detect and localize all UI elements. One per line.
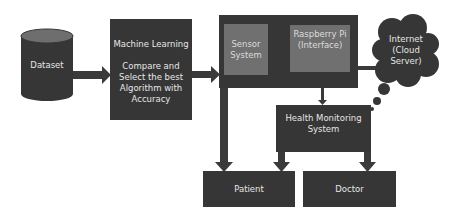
arrow-dataset-to-ml bbox=[73, 66, 111, 84]
internet-label: Internet (Cloud Server) bbox=[389, 34, 423, 67]
patient-label: Patient bbox=[234, 184, 264, 195]
machine-learning-node: Machine Learning Compare and Select the … bbox=[110, 19, 192, 120]
thought-bubbles bbox=[370, 83, 390, 111]
diagram-canvas: Dataset Machine Learning Compare and Sel… bbox=[0, 0, 458, 215]
arrow-iot-to-patient bbox=[215, 86, 233, 172]
internet-node: Internet (Cloud Server) bbox=[380, 30, 432, 70]
ml-title: Machine Learning bbox=[113, 39, 188, 50]
dataset-label: Dataset bbox=[30, 60, 63, 71]
arrow-health-to-doctor bbox=[359, 150, 376, 172]
arrow-health-to-patient bbox=[273, 150, 290, 172]
sensor-system-node: Sensor System bbox=[224, 24, 268, 75]
ml-body: Compare and Select the best Algorithm wi… bbox=[119, 61, 183, 105]
arrow-iot-to-health bbox=[318, 86, 327, 105]
doctor-node: Doctor bbox=[303, 171, 396, 207]
arrow-iot-to-internet bbox=[356, 66, 378, 70]
raspberry-label: Raspberry Pi (Interface) bbox=[293, 29, 346, 51]
health-monitoring-node: Health Monitoring System bbox=[276, 105, 371, 152]
health-label: Health Monitoring System bbox=[285, 113, 361, 135]
patient-node: Patient bbox=[203, 171, 295, 207]
sensor-label: Sensor System bbox=[230, 39, 262, 61]
arrow-ml-to-iot bbox=[192, 66, 220, 83]
dataset-node: Dataset bbox=[21, 44, 73, 86]
doctor-label: Doctor bbox=[335, 184, 363, 195]
raspberry-pi-node: Raspberry Pi (Interface) bbox=[290, 25, 350, 72]
